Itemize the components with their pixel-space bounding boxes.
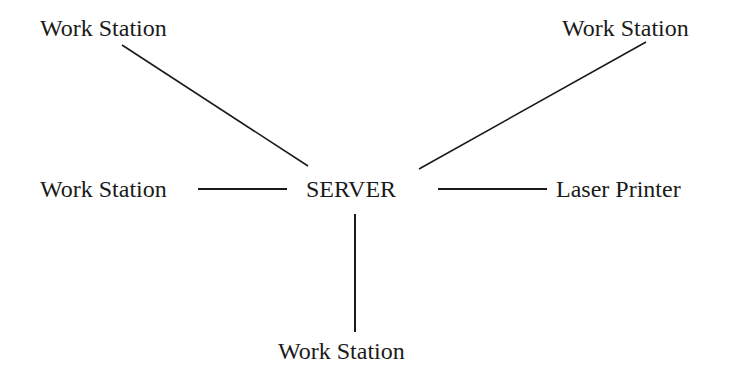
node-server: SERVER [306,177,396,201]
node-ws-left: Work Station [40,177,167,201]
node-laser-printer: Laser Printer [556,177,681,201]
node-ws-top-left: Work Station [40,16,167,40]
node-ws-bottom: Work Station [278,339,405,363]
network-diagram: Work Station Work Station Work Station S… [0,0,743,381]
edge-server-ws-top-left [122,45,308,166]
node-ws-top-right: Work Station [562,16,689,40]
edge-server-ws-top-right [419,42,646,169]
